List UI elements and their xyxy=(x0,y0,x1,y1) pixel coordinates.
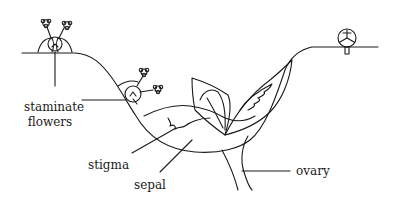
stigma-fringe xyxy=(168,118,210,129)
staminate-flower-top-left-icon xyxy=(38,19,72,52)
sepal-right-fringe xyxy=(240,84,272,110)
stalk-left xyxy=(222,150,238,190)
label-ovary: ovary xyxy=(296,164,330,179)
label-staminate-flowers: staminate flowers xyxy=(24,100,76,130)
sepal-leader xyxy=(160,140,192,172)
stigma-leader xyxy=(132,128,176,153)
label-sepal: sepal xyxy=(134,178,166,193)
bud-icon xyxy=(338,29,356,54)
label-staminate-line1: staminate xyxy=(24,100,76,115)
label-stigma: stigma xyxy=(88,158,129,173)
label-staminate-line2: flowers xyxy=(24,115,76,130)
